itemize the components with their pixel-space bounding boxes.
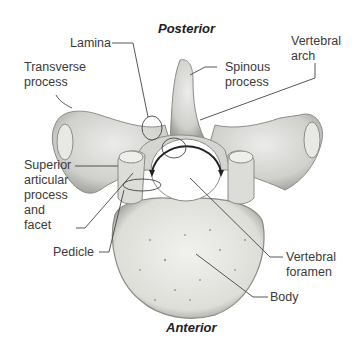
label-lamina: Lamina (70, 36, 111, 51)
orientation-posterior: Posterior (158, 21, 215, 36)
label-body: Body (270, 290, 299, 305)
label-superior-articular-process: Superior articular process and facet (24, 158, 71, 233)
label-vertebral-arch: Vertebral arch (291, 34, 341, 64)
label-vertebral-foramen: Vertebral foramen (286, 250, 336, 280)
orientation-anterior: Anterior (166, 320, 217, 335)
label-pedicle: Pedicle (53, 245, 94, 260)
label-spinous-process: Spinous process (225, 60, 270, 90)
label-transverse-process: Transverse process (24, 60, 86, 90)
spinous-process-shape (170, 60, 205, 140)
vertebral-body-shape (112, 198, 264, 318)
